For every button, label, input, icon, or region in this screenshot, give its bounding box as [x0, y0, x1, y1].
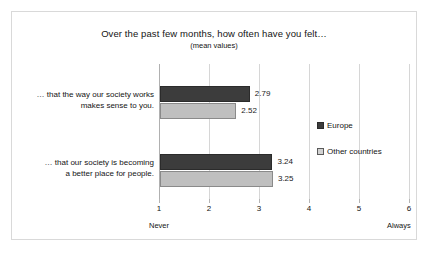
- legend-label-other-countries: Other countries: [327, 146, 382, 157]
- category-label-2: … that our society is becoming a better …: [16, 158, 154, 179]
- chart-title: Over the past few months, how often have…: [12, 28, 416, 39]
- tick-label-1: 1: [147, 204, 171, 214]
- legend-swatch-europe-icon: [317, 122, 324, 129]
- bar-europe-society-makes-sense[interactable]: [160, 86, 250, 102]
- chart-frame: Over the past few months, how often have…: [11, 11, 417, 240]
- category-label-2-line-1: … that our society is becoming: [16, 158, 154, 169]
- legend-item-other-countries[interactable]: Other countries: [317, 146, 412, 159]
- bar-other-countries-society-better-place[interactable]: [160, 171, 273, 187]
- tick-mark-4: [309, 199, 310, 203]
- bar-value-label-other-2: 3.25: [278, 174, 294, 184]
- bar-value-label-europe-1: 2.79: [255, 89, 271, 99]
- tick-label-3: 3: [247, 204, 271, 214]
- bar-europe-society-better-place[interactable]: [160, 154, 272, 170]
- chart-legend: Europe Other countries: [317, 120, 412, 172]
- bar-other-countries-society-makes-sense[interactable]: [160, 103, 236, 119]
- legend-item-europe[interactable]: Europe: [317, 120, 412, 133]
- tick-label-5: 5: [347, 204, 371, 214]
- category-label-2-line-2: a better place for people.: [16, 169, 154, 180]
- legend-swatch-other-countries-icon: [317, 148, 324, 155]
- tick-mark-3: [259, 199, 260, 203]
- tick-mark-5: [359, 199, 360, 203]
- tick-label-2: 2: [197, 204, 221, 214]
- tick-label-4: 4: [297, 204, 321, 214]
- bar-value-label-europe-2: 3.24: [277, 157, 293, 167]
- category-label-1: … that the way our society works makes s…: [16, 90, 154, 111]
- gridline-4: [309, 64, 310, 199]
- bar-value-label-other-1: 2.52: [241, 106, 257, 116]
- tick-mark-1: [159, 199, 160, 203]
- category-label-1-line-2: makes sense to you.: [16, 101, 154, 112]
- legend-label-europe: Europe: [327, 120, 353, 131]
- chart-subtitle: (mean values): [12, 41, 416, 50]
- tick-label-6: 6: [397, 204, 421, 214]
- scale-min-label: Never: [149, 221, 169, 231]
- tick-mark-6: [409, 199, 410, 203]
- tick-mark-2: [209, 199, 210, 203]
- scale-max-label: Always: [387, 221, 411, 231]
- category-label-1-line-1: … that the way our society works: [16, 90, 154, 101]
